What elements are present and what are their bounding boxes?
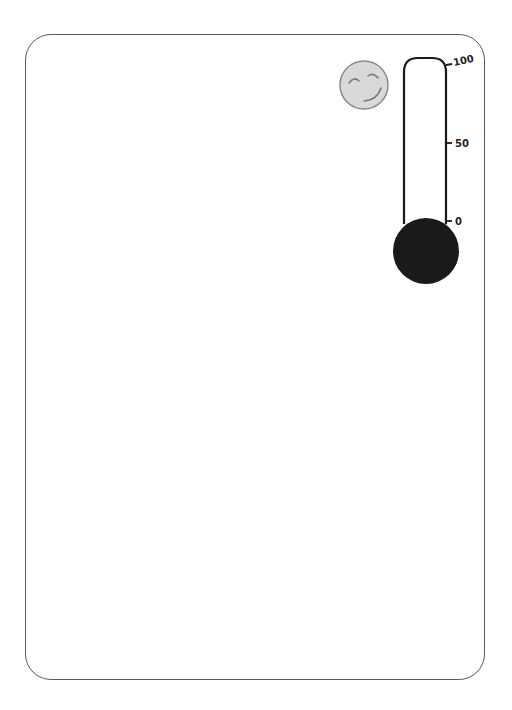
worksheet-card — [25, 34, 485, 680]
